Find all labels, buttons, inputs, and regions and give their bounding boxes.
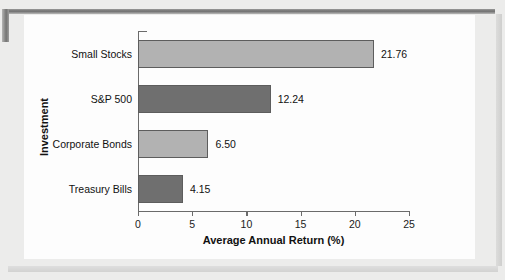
x-axis-tick-label: 15	[295, 218, 307, 230]
page-edge-left	[2, 9, 9, 42]
page-edge-top	[8, 9, 495, 14]
bar	[138, 175, 183, 203]
x-axis-tick	[301, 211, 302, 216]
category-label: Corporate Bonds	[53, 138, 132, 150]
bar-value-label: 4.15	[190, 183, 210, 195]
x-axis-tick	[355, 211, 356, 216]
page-edge-right	[496, 14, 502, 266]
x-axis-title: Average Annual Return (%)	[138, 234, 409, 246]
bar	[138, 85, 271, 113]
bar-value-label: 12.24	[278, 93, 304, 105]
category-label: Small Stocks	[71, 48, 132, 60]
y-axis-title: Investment	[38, 98, 50, 156]
x-axis-tick-label: 25	[403, 218, 415, 230]
x-axis-tick	[409, 211, 410, 216]
bar	[138, 130, 208, 158]
category-label: Treasury Bills	[69, 183, 132, 195]
bar-chart-plot-area: 0510152025 Small Stocks21.76S&P 50012.24…	[24, 15, 475, 259]
x-axis-tick	[246, 211, 247, 216]
x-axis-tick	[192, 211, 193, 216]
x-axis-tick-label: 20	[349, 218, 361, 230]
chart-card: 0510152025 Small Stocks21.76S&P 50012.24…	[24, 15, 475, 259]
x-axis-tick	[138, 211, 139, 216]
y-axis-top-stub	[138, 31, 147, 32]
x-axis-tick-label: 5	[189, 218, 195, 230]
x-axis-tick-label: 10	[241, 218, 253, 230]
page-edge-bottom	[8, 266, 498, 272]
scanned-page: 0510152025 Small Stocks21.76S&P 50012.24…	[0, 0, 505, 280]
bar	[138, 40, 374, 68]
bar-value-label: 6.50	[215, 138, 235, 150]
x-axis-tick-label: 0	[135, 218, 141, 230]
bar-value-label: 21.76	[381, 48, 407, 60]
x-axis-line	[138, 211, 409, 212]
category-label: S&P 500	[91, 93, 132, 105]
